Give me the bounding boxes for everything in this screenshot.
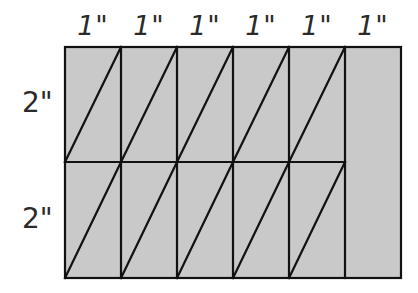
rectangle-grid <box>0 0 418 293</box>
